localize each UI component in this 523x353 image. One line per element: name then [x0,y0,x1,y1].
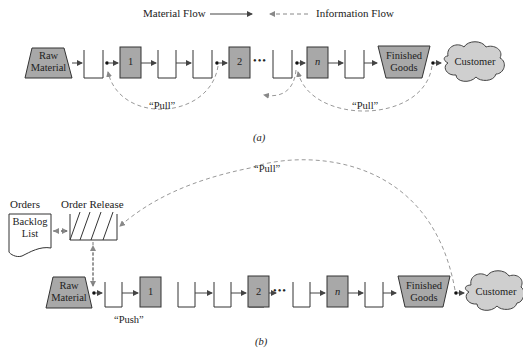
pull-arc-partial [264,70,296,96]
station-2-label: 2 [229,56,250,67]
buffer-icon [105,282,122,307]
pull-arc-big [120,160,455,290]
order-release-bin [70,212,117,240]
station-1-label: 1 [120,56,141,67]
finished-goods-label: FinishedGoods [378,50,430,74]
customer-label: Customer [446,56,504,67]
pull-label: “Pull” [254,163,280,174]
push-label: “Push” [114,314,144,325]
ellipsis: ••• [273,285,287,296]
buffer-icon [158,50,176,78]
legend-material-flow: Material Flow [143,7,206,19]
buffer-icon [273,50,292,78]
raw-material-label: RawMaterial [25,50,72,74]
orders-title: Orders [10,198,40,210]
buffer-icon [293,282,310,307]
ellipsis: ••• [253,55,267,66]
buffer-icon [84,50,103,78]
pull-label: “Pull” [149,100,175,111]
buffer-icon [345,50,364,78]
order-release-label: Order Release [61,198,124,210]
legend-information-flow: Information Flow [316,7,394,19]
backlog-list-label: BacklogList [9,216,51,240]
caption-b: (b) [255,336,267,347]
customer-label: Customer [467,286,523,297]
pull-label: “Pull” [352,100,378,111]
raw-material-label: RawMaterial [46,280,92,304]
station-n-label: n [307,56,328,67]
buffer-icon [178,282,195,307]
buffer-icon [365,282,383,307]
diagram-a [25,42,504,111]
buffer-icon [193,50,212,78]
caption-a: (a) [253,132,265,143]
station-n-label: n [327,286,348,297]
buffer-icon [214,282,231,307]
finished-goods-label: FinishedGoods [398,280,450,304]
station-2-label: 2 [248,286,269,297]
station-1-label: 1 [140,286,161,297]
